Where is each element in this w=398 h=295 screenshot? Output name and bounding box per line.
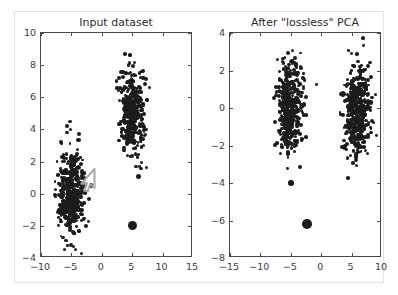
- y-tick: [377, 33, 380, 34]
- data-point: [362, 110, 365, 113]
- data-point: [140, 141, 143, 144]
- y-tick: [41, 33, 44, 34]
- outlier-point: [302, 219, 312, 229]
- data-point: [346, 176, 350, 180]
- data-point: [62, 153, 65, 156]
- data-point: [139, 167, 143, 171]
- data-point: [285, 108, 288, 111]
- x-tick: [163, 253, 164, 256]
- data-point: [347, 113, 350, 116]
- data-point: [361, 121, 364, 124]
- data-point: [354, 158, 358, 162]
- data-point: [273, 120, 277, 124]
- data-point: [357, 119, 360, 122]
- data-point: [293, 145, 296, 148]
- data-point: [76, 175, 79, 178]
- data-point: [354, 153, 358, 157]
- x-tick: [352, 253, 353, 256]
- data-point: [276, 58, 279, 61]
- data-point: [293, 150, 296, 153]
- data-point: [57, 224, 60, 227]
- data-point: [142, 144, 145, 147]
- data-point: [281, 109, 284, 112]
- x-tick-label: −10: [30, 261, 50, 272]
- data-point: [121, 87, 125, 91]
- data-point: [77, 132, 81, 136]
- data-point: [145, 166, 148, 169]
- data-point: [87, 197, 91, 201]
- data-point: [345, 148, 348, 151]
- data-point: [53, 193, 57, 197]
- data-point: [72, 232, 76, 236]
- data-point: [296, 92, 300, 96]
- data-point: [138, 129, 141, 132]
- x-tick: [230, 253, 231, 256]
- data-point: [370, 127, 373, 130]
- data-point: [69, 225, 72, 228]
- data-point: [356, 60, 360, 64]
- y-tick: [41, 129, 44, 130]
- data-point: [76, 148, 79, 151]
- data-point: [131, 64, 135, 68]
- data-point: [145, 128, 148, 131]
- y-tick: [41, 226, 44, 227]
- data-point: [61, 199, 64, 202]
- data-point: [66, 244, 69, 247]
- data-point: [134, 165, 138, 169]
- x-tick: [291, 33, 292, 36]
- data-point: [272, 96, 276, 100]
- data-point: [365, 93, 368, 96]
- y-tick: [188, 33, 191, 34]
- x-tick-label: −5: [63, 261, 77, 272]
- y-tick: [188, 129, 191, 130]
- data-point: [75, 225, 78, 228]
- data-point: [301, 76, 305, 80]
- data-point: [134, 146, 137, 149]
- y-tick: [377, 71, 380, 72]
- data-point: [80, 252, 83, 255]
- data-point: [305, 113, 309, 117]
- y-tick: [41, 162, 44, 163]
- y-tick: [41, 194, 44, 195]
- y-tick: [188, 194, 191, 195]
- x-tick: [260, 253, 261, 256]
- data-point: [286, 124, 290, 128]
- data-point: [302, 85, 305, 88]
- x-tick: [132, 33, 133, 36]
- data-point: [74, 248, 77, 251]
- data-point: [84, 224, 88, 228]
- data-point: [284, 143, 287, 146]
- data-point: [281, 136, 285, 140]
- y-tick-label: −8: [199, 252, 225, 263]
- data-point: [355, 86, 358, 89]
- data-point: [132, 73, 136, 77]
- data-point: [122, 148, 126, 152]
- y-tick-label: 6: [10, 91, 36, 102]
- data-point: [291, 80, 295, 84]
- data-point: [129, 82, 132, 85]
- data-point: [345, 85, 348, 88]
- data-point: [64, 239, 68, 243]
- x-tick: [260, 33, 261, 36]
- data-point: [344, 132, 347, 135]
- data-point: [366, 64, 370, 68]
- data-point: [350, 52, 353, 55]
- data-point: [54, 180, 57, 183]
- y-tick: [377, 108, 380, 109]
- data-point: [284, 94, 287, 97]
- x-tick-label: 0: [317, 261, 323, 272]
- data-point: [82, 201, 86, 205]
- data-point: [286, 135, 289, 138]
- data-point: [89, 183, 93, 187]
- data-point: [349, 154, 352, 157]
- data-point: [347, 109, 350, 112]
- data-point: [286, 167, 289, 170]
- data-point: [69, 128, 73, 132]
- data-point: [282, 61, 285, 64]
- x-tick-label: 10: [375, 261, 387, 272]
- data-point: [296, 125, 299, 128]
- data-point: [369, 131, 372, 134]
- data-point: [134, 97, 138, 101]
- data-point: [369, 100, 372, 103]
- data-point: [79, 196, 82, 199]
